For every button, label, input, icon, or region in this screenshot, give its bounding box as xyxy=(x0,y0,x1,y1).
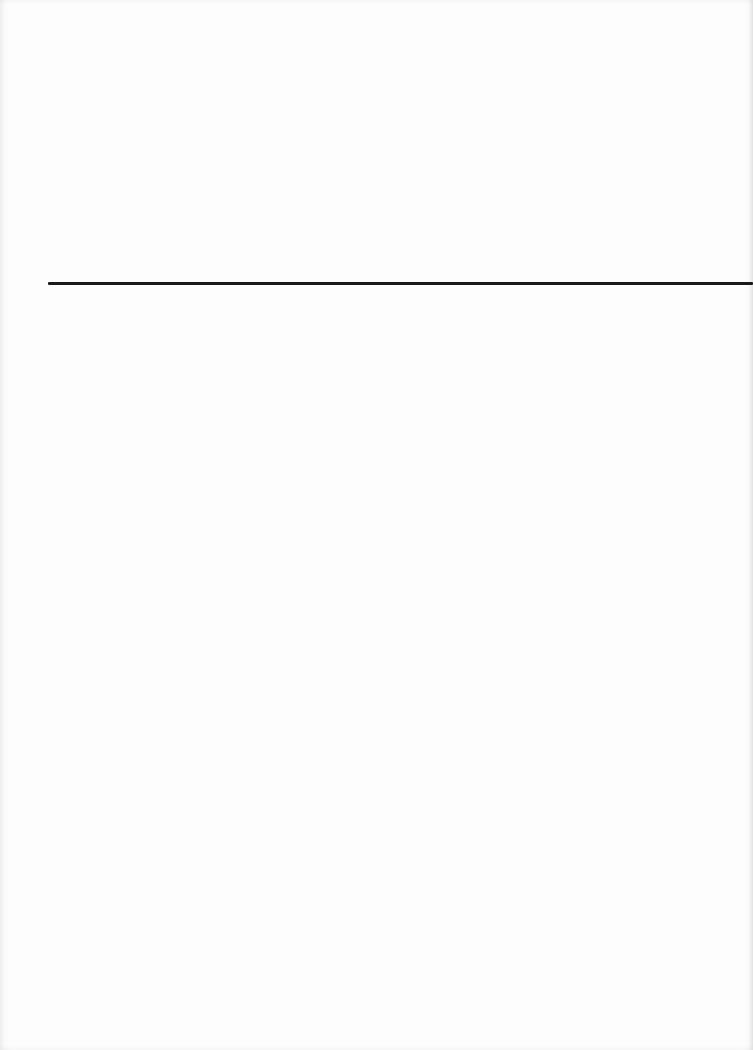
document-page xyxy=(0,0,753,1050)
page-edge-shadow xyxy=(749,0,753,1050)
horizontal-rule xyxy=(48,282,753,285)
